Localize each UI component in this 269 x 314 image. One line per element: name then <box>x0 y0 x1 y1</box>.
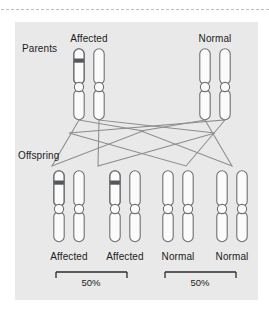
inheritance-crossing-lines <box>52 120 232 166</box>
offspring-group-2-affected <box>110 171 140 242</box>
offspring-group-label-4: Normal <box>216 251 249 262</box>
parent-group-affected <box>74 49 104 120</box>
crossing-line-a <box>52 120 143 166</box>
chromosome-banded <box>74 49 84 120</box>
chromosome-plain <box>183 171 193 242</box>
parent-group-label-affected: Affected <box>70 33 107 44</box>
chromosome-plain <box>163 171 173 242</box>
chromosome-banded <box>110 171 120 242</box>
chromosome-plain <box>200 49 210 120</box>
row-label-offspring: Offspring <box>18 150 59 161</box>
offspring-group-3-normal <box>163 171 193 242</box>
crossing-line-b <box>98 120 215 166</box>
offspring-group-label-3: Normal <box>162 251 195 262</box>
offspring-group-label-2: Affected <box>106 251 143 262</box>
normal-bracket-percent: 50% <box>190 277 209 288</box>
chromosome-plain <box>130 171 140 242</box>
parent-group-normal <box>200 49 230 120</box>
offspring-group-1-affected <box>54 171 84 242</box>
row-label-parents: Parents <box>22 43 57 54</box>
chromosome-banded <box>54 171 64 242</box>
crossing-line-c <box>141 120 232 166</box>
chromosome-plain <box>74 171 84 242</box>
offspring-group-4-normal <box>217 171 247 242</box>
inheritance-diagram: Parents Affected Normal Offspring Affect… <box>0 0 269 314</box>
affected-bracket-percent: 50% <box>81 277 100 288</box>
parent-group-label-normal: Normal <box>199 33 232 44</box>
chromosome-plain <box>94 49 104 120</box>
offspring-chromosomes <box>54 171 247 242</box>
offspring-group-label-1: Affected <box>50 251 87 262</box>
chromosome-plain <box>217 171 227 242</box>
chromosome-plain <box>237 171 247 242</box>
chromosome-plain <box>220 49 230 120</box>
parent-chromosomes <box>74 49 230 120</box>
crossing-line-d <box>69 120 225 166</box>
